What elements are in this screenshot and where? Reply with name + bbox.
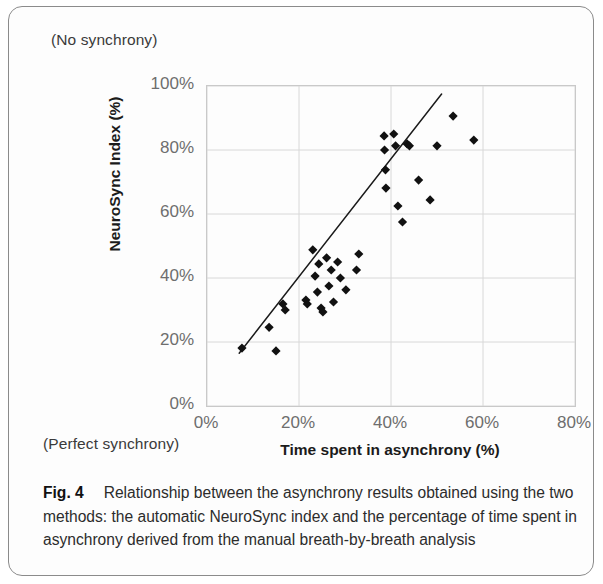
data-point: [393, 201, 402, 210]
y-tick-label: 60%: [114, 202, 194, 222]
trend-line-segment: [239, 94, 441, 353]
scatter-plot-canvas: [207, 86, 575, 406]
data-points: [237, 111, 478, 355]
y-tick-label: 40%: [114, 266, 194, 286]
data-point: [380, 145, 389, 154]
x-tick-label: 80%: [539, 413, 603, 433]
data-point: [354, 249, 363, 258]
data-point: [398, 217, 407, 226]
y-tick-label: 20%: [114, 330, 194, 350]
trend-line: [239, 94, 441, 353]
data-point: [381, 165, 390, 174]
perfect-synchrony-note: (Perfect synchrony): [43, 435, 179, 453]
figure-card: (No synchrony) (Perfect synchrony) Neuro…: [8, 6, 594, 576]
data-point: [313, 287, 322, 296]
data-point: [329, 297, 338, 306]
x-tick-label: 20%: [263, 413, 333, 433]
figure-caption-text: Relationship between the asynchrony resu…: [43, 484, 577, 548]
data-point: [336, 273, 345, 282]
data-point: [314, 259, 323, 268]
x-axis-title: Time spent in asynchrony (%): [206, 441, 574, 459]
data-point: [308, 245, 317, 254]
x-tick-label: 60%: [447, 413, 517, 433]
data-point: [322, 253, 331, 262]
data-point: [352, 265, 361, 274]
data-point: [327, 265, 336, 274]
data-point: [432, 141, 441, 150]
data-point: [469, 135, 478, 144]
x-tick-label: 0%: [171, 413, 241, 433]
figure-label: Fig. 4: [43, 484, 99, 501]
data-point: [381, 183, 390, 192]
data-point: [449, 111, 458, 120]
data-point: [333, 257, 342, 266]
figure-caption: Fig. 4 Relationship between the asynchro…: [43, 481, 577, 552]
no-synchrony-note: (No synchrony): [51, 31, 158, 49]
scatter-plot-area: [206, 85, 576, 407]
data-point: [380, 131, 389, 140]
data-point: [414, 175, 423, 184]
data-point: [341, 285, 350, 294]
data-point: [426, 195, 435, 204]
data-point: [324, 281, 333, 290]
y-tick-label: 100%: [114, 74, 194, 94]
y-tick-label: 80%: [114, 138, 194, 158]
data-point: [311, 271, 320, 280]
data-point: [265, 323, 274, 332]
x-tick-label: 40%: [355, 413, 425, 433]
data-point: [271, 346, 280, 355]
y-tick-label: 0%: [114, 394, 194, 414]
